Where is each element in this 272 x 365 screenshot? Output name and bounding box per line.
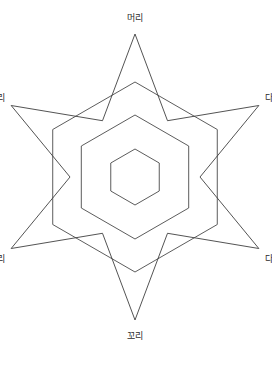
grid-rings xyxy=(53,82,218,272)
data-series-group xyxy=(11,34,259,320)
axis-label-leg-lower-left: 다리 xyxy=(0,254,11,264)
data-polygon-star xyxy=(11,34,259,320)
axis-label-leg-lower-right: 다리 xyxy=(259,254,272,264)
axis-label-leg-upper-right: 다리 xyxy=(259,93,272,103)
grid-ring-3 xyxy=(53,82,218,272)
grid-ring-1 xyxy=(111,149,160,205)
axis-label-head: 머리 xyxy=(121,13,149,23)
grid-ring-2 xyxy=(81,115,188,239)
axis-label-leg-upper-left: 다리 xyxy=(0,93,11,103)
radar-chart-page: 머리 다리 다리 다리 다리 꼬리 xyxy=(0,0,272,365)
radar-chart-canvas xyxy=(0,0,272,365)
axis-label-tail: 꼬리 xyxy=(121,331,149,341)
